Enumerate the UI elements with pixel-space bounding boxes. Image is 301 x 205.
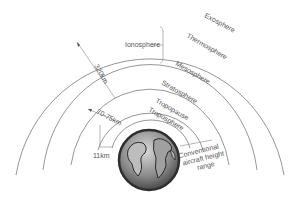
earth-globe-icon (119, 130, 179, 190)
label-exosphere: Exosphere (203, 12, 236, 35)
label-mesosphere: Mesosphere (174, 60, 211, 86)
aircraft-height-label: Conventional aircraft height range (178, 142, 227, 176)
label-11km: 11km (93, 152, 110, 159)
atmosphere-diagram: Exosphere Thermosphere Mesosphere Strato… (0, 0, 301, 205)
label-ionosphere: Ionosphere (125, 41, 160, 49)
label-70-75km: 70-75km (96, 108, 123, 127)
label-thermosphere: Thermosphere (185, 32, 229, 62)
